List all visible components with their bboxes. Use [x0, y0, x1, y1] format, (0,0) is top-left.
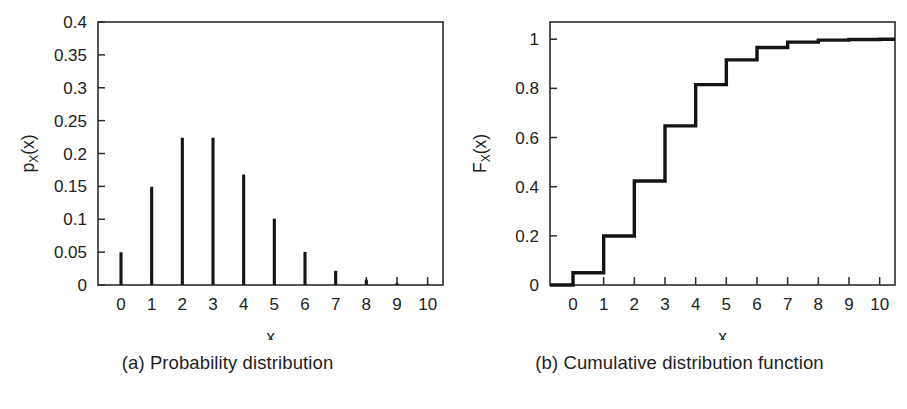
y-tick-label: 0.4 [63, 13, 87, 32]
y-tick-label: 0.2 [63, 145, 87, 164]
x-tick-label: 4 [691, 295, 700, 314]
panel-a-caption: (a) Probability distribution [0, 352, 455, 374]
y-axis-title-main: F [470, 162, 490, 173]
x-tick-label: 10 [418, 295, 437, 314]
plot-frame [550, 22, 895, 285]
x-tick-label: 9 [844, 295, 853, 314]
y-axis-title-subscript: X [27, 155, 41, 163]
x-tick-label: 7 [783, 295, 792, 314]
plot-frame [98, 22, 443, 285]
x-tick-label: 1 [147, 295, 156, 314]
x-tick-label: 6 [752, 295, 761, 314]
panel-b-caption: (b) Cumulative distribution function [452, 352, 907, 374]
figure-container: 00.050.10.150.20.250.30.350.401234567891… [0, 0, 907, 409]
x-tick-label: 1 [599, 295, 608, 314]
x-tick-label: 5 [722, 295, 731, 314]
y-tick-label: 0.6 [515, 129, 539, 148]
x-tick-label: 10 [870, 295, 889, 314]
y-tick-label: 0.2 [515, 227, 539, 246]
y-axis-title-text: pX(x) [18, 134, 41, 172]
x-tick-label: 3 [208, 295, 217, 314]
y-tick-label: 1 [530, 30, 539, 49]
y-tick-label: 0.8 [515, 79, 539, 98]
x-tick-label: 0 [568, 295, 577, 314]
y-axis-title: pX(x) [18, 134, 41, 172]
x-tick-label: 8 [362, 295, 371, 314]
x-tick-label: 2 [630, 295, 639, 314]
panel-cumulative-distribution-function: 00.20.40.60.81012345678910xFX(x) (b) Cum… [452, 0, 907, 409]
y-tick-label: 0.1 [63, 210, 87, 229]
y-tick-label: 0.05 [54, 243, 87, 262]
y-axis-title: FX(x) [470, 134, 493, 173]
y-tick-label: 0.4 [515, 178, 539, 197]
x-tick-label: 4 [239, 295, 248, 314]
x-tick-label: 7 [331, 295, 340, 314]
y-axis-title-text: FX(x) [470, 134, 493, 173]
y-tick-label: 0 [78, 276, 87, 295]
y-axis-title-arg: (x) [470, 134, 490, 154]
x-tick-label: 5 [270, 295, 279, 314]
x-tick-label: 6 [300, 295, 309, 314]
x-axis-title: x [266, 327, 275, 340]
probability-distribution-chart: 00.050.10.150.20.250.30.350.401234567891… [0, 0, 455, 340]
x-tick-label: 2 [178, 295, 187, 314]
y-axis-title-subscript: X [479, 154, 493, 162]
cumulative-distribution-chart: 00.20.40.60.81012345678910xFX(x) [452, 0, 907, 340]
panel-probability-distribution: 00.050.10.150.20.250.30.350.401234567891… [0, 0, 455, 409]
y-tick-label: 0.3 [63, 79, 87, 98]
y-axis-title-arg: (x) [18, 134, 38, 154]
cdf-step-line [550, 39, 895, 285]
y-tick-label: 0.15 [54, 177, 87, 196]
y-tick-label: 0.35 [54, 46, 87, 65]
x-tick-label: 3 [660, 295, 669, 314]
x-tick-label: 8 [814, 295, 823, 314]
y-axis-title-main: p [18, 163, 38, 173]
stem-series [121, 138, 428, 285]
x-tick-label: 9 [392, 295, 401, 314]
y-tick-label: 0.25 [54, 112, 87, 131]
y-tick-label: 0 [530, 276, 539, 295]
x-tick-label: 0 [116, 295, 125, 314]
x-axis-title: x [718, 327, 727, 340]
